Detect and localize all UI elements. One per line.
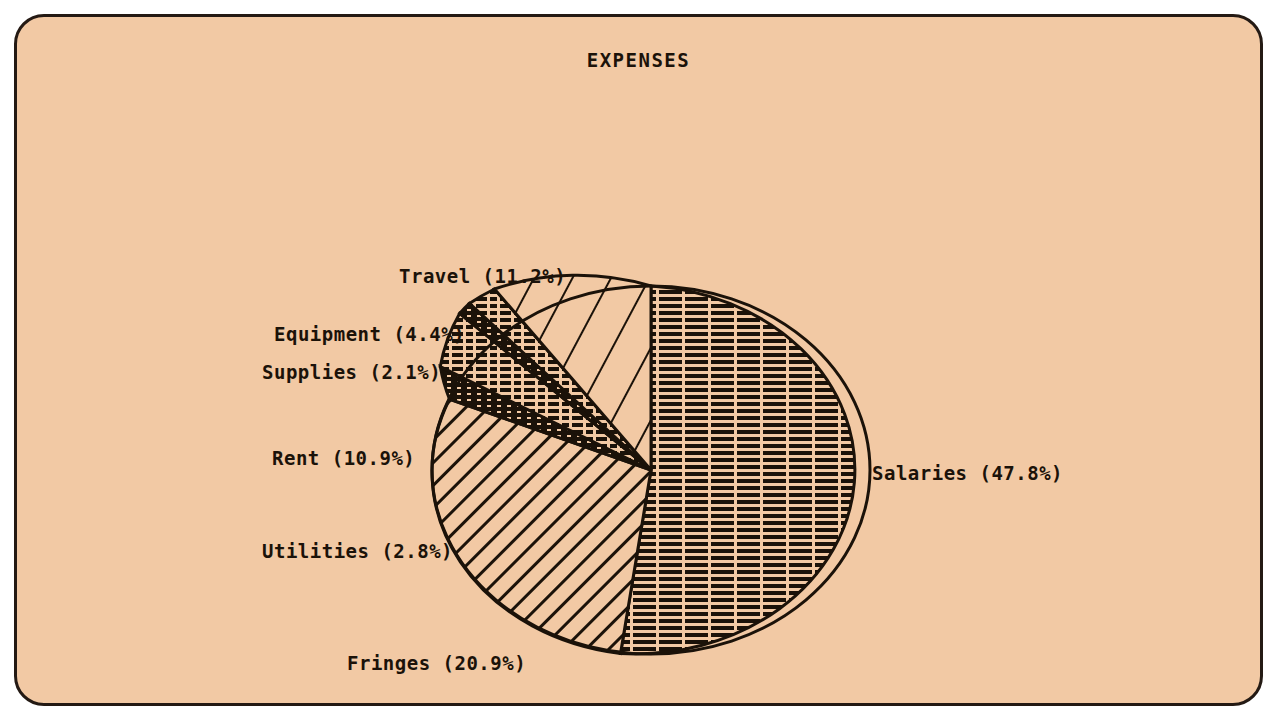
pie-svg [17, 17, 1266, 709]
pie-label-salaries: Salaries (47.8%) [872, 462, 1063, 484]
screenshot-root: EXPENSES [0, 0, 1281, 724]
pie-label-supplies: Supplies (2.1%) [262, 361, 441, 383]
pie-label-rent: Rent (10.9%) [272, 447, 415, 469]
pie-label-utilities: Utilities (2.8%) [262, 540, 453, 562]
pie-slices [432, 275, 855, 654]
pie-chart: Salaries (47.8%) Fringes (20.9%) Utiliti… [17, 17, 1266, 709]
pie-label-equipment: Equipment (4.4%) [274, 323, 465, 345]
pie-label-fringes: Fringes (20.9%) [347, 652, 526, 674]
pie-label-travel: Travel (11.2%) [399, 265, 566, 287]
pie-slice-salaries[interactable] [621, 286, 855, 654]
chart-frame: EXPENSES [14, 14, 1263, 706]
